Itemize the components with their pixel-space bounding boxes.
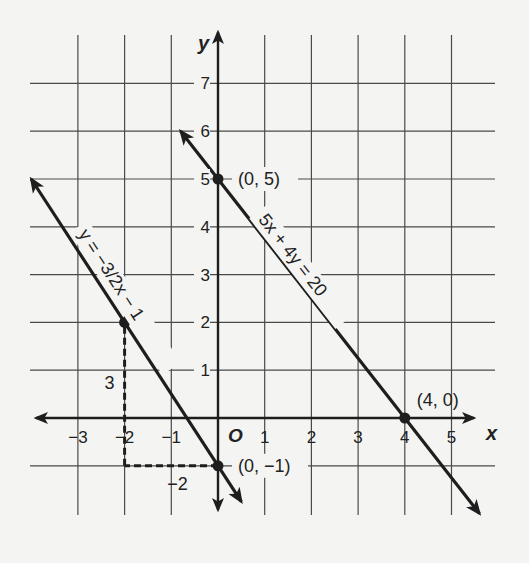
point-label-0-neg1: (0, −1) <box>238 456 291 476</box>
y-tick-label: 4 <box>201 218 210 237</box>
x-tick-label: 4 <box>400 428 409 447</box>
x-tick-label: 3 <box>353 428 362 447</box>
y-tick-label: 3 <box>201 266 210 285</box>
data-point <box>213 460 224 471</box>
point-label-4-0: (4, 0) <box>417 390 459 410</box>
origin-label: O <box>228 425 243 446</box>
coordinate-plane-chart: −3−2−1123451234567xyO(0, 5)(4, 0)(0, −1)… <box>0 0 529 563</box>
point-label-0-5: (0, 5) <box>238 169 280 189</box>
x-axis-label: x <box>485 422 498 444</box>
x-tick-label: −1 <box>162 428 181 447</box>
y-tick-label: 7 <box>201 74 210 93</box>
x-tick-label: −3 <box>68 428 87 447</box>
data-point <box>399 413 410 424</box>
y-tick-label: 5 <box>201 170 210 189</box>
x-tick-label: −2 <box>115 428 134 447</box>
x-tick-label: 5 <box>447 428 456 447</box>
data-point <box>213 174 224 185</box>
y-tick-label: 6 <box>201 122 210 141</box>
y-tick-label: 1 <box>201 361 210 380</box>
equation-text: 5x + 4y = 20 <box>255 210 332 300</box>
x-tick-label: 1 <box>260 428 269 447</box>
y-axis-label: y <box>197 32 210 54</box>
rise-label: 3 <box>105 373 115 393</box>
y-tick-label: 2 <box>201 313 210 332</box>
x-tick-label: 2 <box>307 428 316 447</box>
run-label: −2 <box>167 474 188 494</box>
